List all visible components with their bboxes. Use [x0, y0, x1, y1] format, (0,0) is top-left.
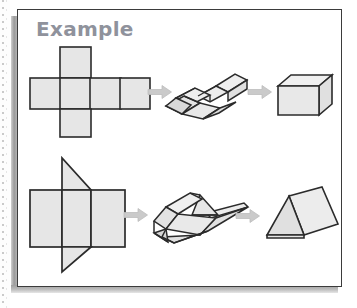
prism-solid	[259, 186, 339, 252]
page-edge-dots-secondary	[6, 0, 7, 308]
cube-net	[29, 46, 151, 138]
page-root: Example	[0, 0, 357, 308]
cube-solid	[277, 74, 333, 118]
arrow-right-icon	[236, 210, 260, 223]
arrow-right-icon	[124, 209, 148, 222]
cube-folding	[162, 72, 248, 120]
prism-arrow-2	[236, 209, 260, 223]
arrow-right-icon	[248, 86, 272, 99]
cube-arrow-2	[248, 85, 272, 99]
page-edge-dots	[2, 0, 4, 308]
scanned-page-edge	[0, 0, 10, 308]
prism-arrow-1	[124, 208, 148, 222]
example-title: Example	[36, 17, 134, 41]
